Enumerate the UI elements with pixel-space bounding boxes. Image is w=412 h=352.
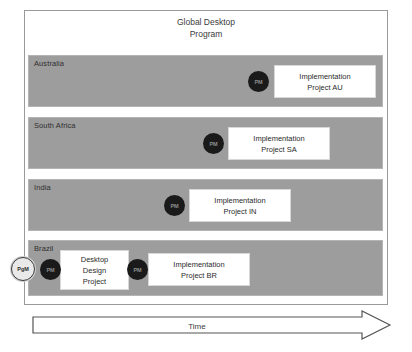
time-axis-label: Time <box>32 322 362 331</box>
role-marker-pm-india[interactable]: PM <box>164 195 185 216</box>
swimlane-label-south-africa: South Africa <box>34 121 76 130</box>
role-marker-pgm-program[interactable]: PgM <box>11 257 35 281</box>
swimlane-diagram: Global Desktop Program Australia Impleme… <box>0 0 412 352</box>
role-marker-pm-australia[interactable]: PM <box>248 71 269 92</box>
role-marker-pm-desktop-design[interactable]: PM <box>40 259 61 280</box>
role-marker-pm-south-africa[interactable]: PM <box>203 133 224 154</box>
project-box-implementation-in[interactable]: Implementation Project IN <box>189 189 291 222</box>
swimlane-label-australia: Australia <box>34 59 64 68</box>
swimlane-label-brazil: Brazil <box>34 244 53 253</box>
project-box-implementation-au[interactable]: Implementation Project AU <box>274 65 376 98</box>
project-box-desktop-design[interactable]: Desktop Design Project <box>60 250 129 290</box>
swimlane-label-india: India <box>34 183 51 192</box>
project-box-implementation-br[interactable]: Implementation Project BR <box>148 253 250 286</box>
role-marker-pm-brazil[interactable]: PM <box>127 259 148 280</box>
project-box-implementation-sa[interactable]: Implementation Project SA <box>228 127 330 160</box>
program-title: Global Desktop Program <box>24 17 388 40</box>
